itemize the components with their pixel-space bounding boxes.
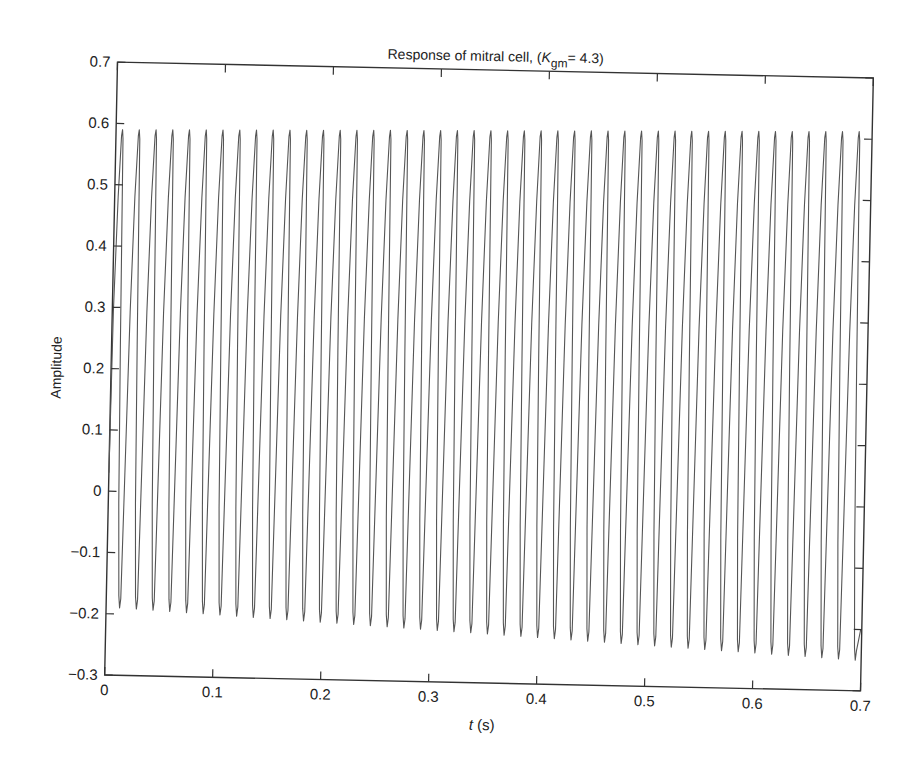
title-prefix: Response of mitral cell, ( <box>387 46 542 65</box>
y-tick-label: 0.7 <box>89 53 110 70</box>
y-tick-label: −0.3 <box>68 665 98 683</box>
y-tick-label: 0.4 <box>86 236 107 253</box>
x-tick-label: 0.3 <box>418 688 439 705</box>
x-axis-unit: (s) <box>473 716 495 733</box>
chart-figure: 00.10.20.30.40.50.60.7 −0.3−0.2−0.100.10… <box>0 0 915 770</box>
x-tick-label: 0.4 <box>526 690 547 707</box>
response-trace <box>105 116 871 660</box>
x-tick-label: 0.2 <box>310 685 331 702</box>
plot-group: 00.10.20.30.40.50.60.7 −0.3−0.2−0.100.10… <box>41 39 885 741</box>
x-tick-label: 0.7 <box>850 697 871 714</box>
y-axis-tick-labels: −0.3−0.2−0.100.10.20.30.40.50.60.7 <box>68 52 111 682</box>
x-axis-tick-labels: 00.10.20.30.40.50.60.7 <box>100 681 871 714</box>
y-tick-label: 0.1 <box>82 420 103 437</box>
y-tick-label: 0.3 <box>84 298 105 315</box>
y-tick-label: 0.6 <box>88 114 109 131</box>
x-tick-label: 0.5 <box>634 692 655 709</box>
x-tick-label: 0 <box>100 681 109 698</box>
y-tick-label: 0.5 <box>87 175 108 192</box>
mitral-cell-trace <box>105 116 871 660</box>
x-tick-label: 0.6 <box>742 694 763 711</box>
y-tick-label: 0 <box>93 482 102 499</box>
y-tick-label: 0.2 <box>83 359 104 376</box>
y-axis-label: Amplitude <box>47 336 64 399</box>
chart-title: Response of mitral cell, (Kgm= 4.3) <box>387 46 604 72</box>
x-tick-label: 0.1 <box>202 683 223 700</box>
y-tick-label: −0.2 <box>69 604 99 622</box>
title-suffix: = 4.3) <box>567 50 604 67</box>
x-axis-label: t (s) <box>469 716 495 734</box>
y-tick-label: −0.1 <box>70 543 100 561</box>
title-subscript: gm <box>551 56 568 70</box>
